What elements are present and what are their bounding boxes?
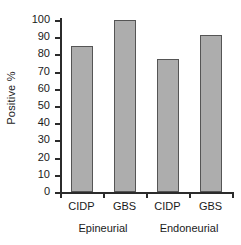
bar-chart: Positive % 1009080706050403020100 CIDPGB… (0, 0, 241, 245)
y-axis-tick-label: 80 (38, 47, 50, 59)
y-axis-tick-mark (55, 54, 60, 56)
bar (114, 20, 136, 192)
plot-area: 1009080706050403020100 (60, 20, 232, 192)
y-axis-tick-label: 0 (44, 185, 50, 197)
x-axis-tick-mark (146, 192, 148, 198)
y-axis-tick-mark (55, 37, 60, 39)
y-axis-tick: 60 (4, 89, 60, 90)
y-axis-title: Positive % (0, 0, 22, 195)
y-axis-tick-mark (55, 140, 60, 142)
y-axis-tick-label: 60 (38, 82, 50, 94)
y-axis-tick-label: 90 (38, 30, 50, 42)
y-axis-tick-mark (55, 158, 60, 160)
x-axis-group-label: Endoneurial (144, 222, 234, 235)
x-axis-group-label: Epineurial (58, 222, 148, 235)
y-axis-tick-mark (55, 89, 60, 91)
y-axis-tick: 80 (4, 54, 60, 55)
y-axis-tick: 30 (4, 140, 60, 141)
x-axis-tick-mark (60, 192, 62, 198)
y-axis-tick-label: 100 (32, 13, 50, 25)
y-axis-tick-label: 70 (38, 65, 50, 77)
x-axis-tick-mark (189, 192, 191, 198)
y-axis-tick-label: 10 (38, 168, 50, 180)
y-axis-tick: 20 (4, 158, 60, 159)
y-axis-tick: 10 (4, 175, 60, 176)
y-axis-tick-label: 40 (38, 116, 50, 128)
y-axis-tick-label: 50 (38, 99, 50, 111)
y-axis-title-text: Positive % (5, 71, 17, 124)
y-axis-tick: 50 (4, 106, 60, 107)
y-axis-tick: 0 (4, 192, 60, 193)
bar (157, 59, 179, 192)
bar (200, 35, 222, 192)
y-axis-tick-mark (55, 123, 60, 125)
x-axis-category-label: GBS (181, 200, 241, 213)
x-axis-tick-mark (103, 192, 105, 198)
y-axis-tick-mark (55, 72, 60, 74)
y-axis-tick: 40 (4, 123, 60, 124)
y-axis-tick-mark (55, 20, 60, 22)
y-axis-tick-label: 30 (38, 133, 50, 145)
y-axis-line (60, 18, 62, 194)
y-axis-tick-mark (55, 106, 60, 108)
y-axis-tick: 100 (4, 20, 60, 21)
y-axis-tick: 70 (4, 72, 60, 73)
y-axis-tick: 90 (4, 37, 60, 38)
bar (71, 46, 93, 192)
y-axis-tick-label: 20 (38, 151, 50, 163)
y-axis-tick-mark (55, 175, 60, 177)
x-axis-tick-mark (232, 192, 234, 198)
